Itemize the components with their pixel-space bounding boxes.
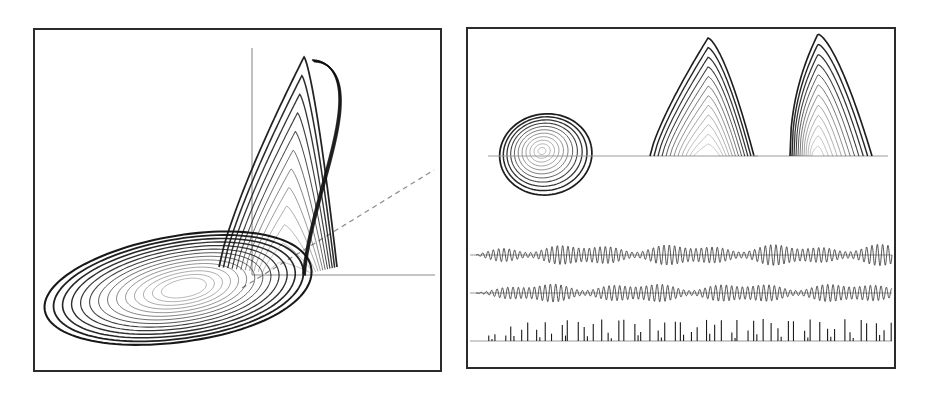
projection-arch-group — [488, 38, 758, 156]
left-panel-phase-portrait — [33, 28, 442, 372]
depth-axis-dashed — [242, 170, 434, 288]
timeseries-z-spiketrain — [480, 319, 891, 341]
timeseries-y-group — [470, 284, 892, 302]
figure-root — [0, 0, 929, 398]
timeseries-x-group — [470, 244, 892, 265]
projections-timeseries-svg — [468, 29, 894, 367]
right-panel-projections-timeseries — [466, 27, 896, 369]
attractor-trajectory — [45, 57, 342, 345]
timeseries-z-group — [470, 319, 892, 341]
projection-arch — [650, 38, 754, 156]
projection-spike-group — [753, 34, 888, 156]
phase-portrait-svg — [35, 30, 440, 370]
projection-spike — [790, 34, 872, 156]
projection-spiral — [500, 114, 592, 195]
